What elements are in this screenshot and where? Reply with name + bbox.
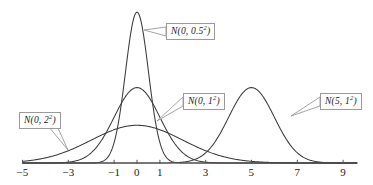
callout-pointer-group [48, 27, 320, 150]
x-axis-tick-label-3: 0 [134, 166, 140, 178]
callout-text-base: N(0, 2 [24, 115, 49, 125]
x-axis-tick-label-7: 7 [294, 166, 300, 178]
callout-label-normal-0-2: N(0, 22) [19, 112, 61, 129]
normal-distributions-figure: N(0, 0.52) N(0, 12) N(5, 12) N(0, 22) −5… [0, 0, 373, 185]
callout-text-tail: ) [207, 26, 210, 36]
callout-pointer-normal-0-0.5 [144, 27, 166, 36]
x-axis-tick-label-0: −5 [16, 166, 28, 178]
callout-text-base: N(0, 0.5 [171, 26, 203, 36]
callout-label-normal-5-1: N(5, 12) [320, 93, 362, 110]
callout-text-base: N(5, 1 [325, 96, 350, 106]
callout-text-base: N(0, 1 [188, 96, 213, 106]
callout-label-normal-0-1: N(0, 12) [183, 93, 225, 110]
x-axis-tick-label-2: −1 [108, 166, 120, 178]
callout-label-normal-0-0.5: N(0, 0.52) [166, 23, 215, 40]
x-axis-tick-label-1: −3 [62, 166, 74, 178]
callout-pointer-normal-5-1 [291, 97, 320, 116]
callout-pointer-normal-0-2 [48, 126, 68, 150]
x-axis-tick-label-8: 9 [340, 166, 346, 178]
x-axis-tick-label-4: 1 [157, 166, 163, 178]
callout-pointer-normal-0-1 [157, 97, 183, 121]
callout-text-tail: ) [216, 96, 219, 106]
callout-text-tail: ) [52, 115, 55, 125]
callout-text-tail: ) [353, 96, 356, 106]
x-axis-tick-label-6: 5 [249, 166, 255, 178]
x-axis-tick-label-5: 3 [203, 166, 209, 178]
